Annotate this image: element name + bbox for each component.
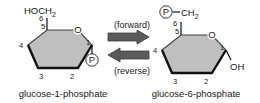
forward-label: (forward) xyxy=(114,20,150,30)
glucose-6-phosphate-structure: O P CH2 OH 6 5 4 3 2 1 glucose-6-phospha… xyxy=(152,6,245,99)
reaction-diagram: O HOCH2 P 6 5 4 3 2 1 glucose-1-phosphat… xyxy=(0,0,260,103)
glucose-1-phosphate-structure: O HOCH2 P 6 5 4 3 2 1 glucose-1-phosphat… xyxy=(19,5,108,99)
ring-oxygen-label-right: O xyxy=(208,29,215,40)
carbon-number-2-right: 2 xyxy=(204,77,208,86)
reverse-arrow-icon xyxy=(108,48,149,62)
caption-glucose-6-phosphate: glucose-6-phosphate xyxy=(152,88,241,99)
reverse-label: (reverse) xyxy=(114,66,150,76)
phosphate-label-left: P xyxy=(89,54,95,65)
phosphate-label-right: P xyxy=(163,6,169,17)
carbon-number-5-left: 5 xyxy=(41,22,45,31)
ch2-label-right: CH2 xyxy=(181,7,199,20)
carbon-number-3-left: 3 xyxy=(39,72,43,81)
carbon-number-2-left: 2 xyxy=(70,72,74,81)
carbon-number-4-left: 4 xyxy=(19,41,23,50)
carbon-number-3-right: 3 xyxy=(173,77,177,86)
reaction-arrows: (forward) (reverse) xyxy=(108,20,150,76)
carbon-number-1-left: 1 xyxy=(86,38,90,47)
carbon-number-5-right: 5 xyxy=(175,27,179,36)
c1-bond-right xyxy=(226,50,231,60)
carbon-number-4-right: 4 xyxy=(153,46,157,55)
hydroxyl-label-right: OH xyxy=(230,61,244,72)
ring-oxygen-label-left: O xyxy=(74,24,81,35)
carbon-number-1-right: 1 xyxy=(220,43,224,52)
caption-glucose-1-phosphate: glucose-1-phosphate xyxy=(19,88,108,99)
forward-arrow-icon xyxy=(108,30,149,44)
